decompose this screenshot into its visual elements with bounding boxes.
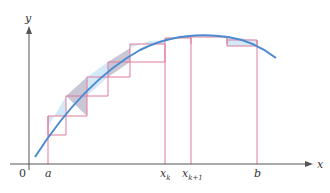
rectangle-fills (48, 37, 257, 127)
tick-label-xk: xk (160, 167, 170, 182)
tick-label-a: a (45, 167, 52, 180)
axes (10, 26, 313, 170)
x-axis-arrow-icon (305, 161, 313, 167)
y-axis-label: y (24, 12, 32, 25)
tick-label-b: b (254, 167, 261, 180)
origin-label: 0 (19, 167, 26, 180)
x-axis-label: x (317, 158, 324, 171)
tick-label-xk1: xk+1 (182, 167, 203, 182)
y-axis-arrow-icon (26, 26, 32, 34)
riemann-sum-diagram: y x 0 a xk xk+1 b (0, 0, 330, 193)
